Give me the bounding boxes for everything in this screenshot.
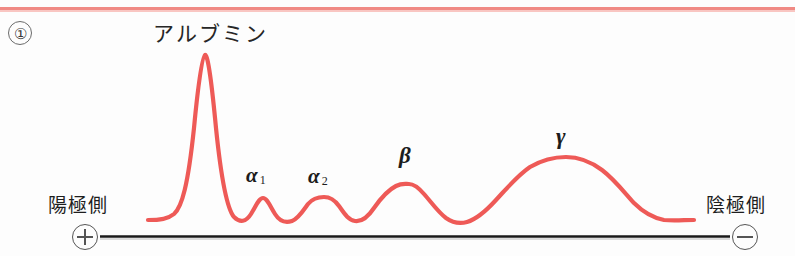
cathode-side-label: 陰極側 xyxy=(706,190,766,217)
anode-side-label: 陽極側 xyxy=(48,190,108,217)
figure-container: ① アルブミン α1 α2 β γ 陽極側 陰極側 xyxy=(0,0,795,256)
minus-in-circle-icon xyxy=(732,224,758,250)
electrophoresis-plot xyxy=(0,0,795,256)
peak-label-alpha2: α2 xyxy=(308,164,328,189)
alpha1-glyph: α xyxy=(246,163,258,187)
alpha2-glyph: α xyxy=(308,164,320,188)
peak-label-alpha1: α1 xyxy=(246,163,266,188)
gamma-glyph: γ xyxy=(556,124,566,149)
plus-vertical-bar xyxy=(84,229,85,245)
minus-horizontal-bar xyxy=(737,236,753,237)
alpha1-subscript: 1 xyxy=(260,173,266,187)
peak-label-beta: β xyxy=(399,143,411,169)
beta-glyph: β xyxy=(399,143,411,168)
peak-label-gamma: γ xyxy=(556,124,566,150)
plus-in-circle-icon xyxy=(72,224,98,250)
alpha2-subscript: 2 xyxy=(322,174,328,188)
electrophoresis-curve xyxy=(148,55,694,223)
